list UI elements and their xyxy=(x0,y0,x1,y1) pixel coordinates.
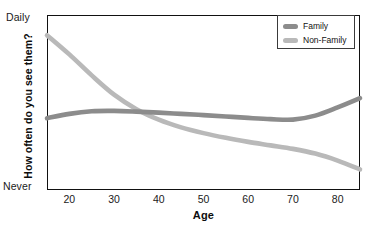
x-tick-label-50: 50 xyxy=(198,193,210,205)
legend-item-family[interactable]: Family xyxy=(283,20,349,33)
x-tick-label-60: 60 xyxy=(242,193,254,205)
x-tick-label-20: 20 xyxy=(64,193,76,205)
x-axis-title: Age xyxy=(47,209,360,221)
legend-label-family: Family xyxy=(303,22,328,31)
x-tick-label-80: 80 xyxy=(332,193,344,205)
series-line-family xyxy=(47,98,360,120)
chart-container: Daily Never How often do you see them? 2… xyxy=(0,0,373,232)
legend-label-non-family: Non-Family xyxy=(303,36,346,45)
legend-swatch-non-family xyxy=(283,38,298,43)
legend-swatch-family xyxy=(283,24,298,29)
x-tick-label-30: 30 xyxy=(108,193,120,205)
x-tick-label-70: 70 xyxy=(287,193,299,205)
series-line-non-family xyxy=(47,35,360,169)
legend-item-non-family[interactable]: Non-Family xyxy=(283,34,349,47)
chart-legend: Family Non-Family xyxy=(277,15,355,49)
x-tick-label-40: 40 xyxy=(153,193,165,205)
